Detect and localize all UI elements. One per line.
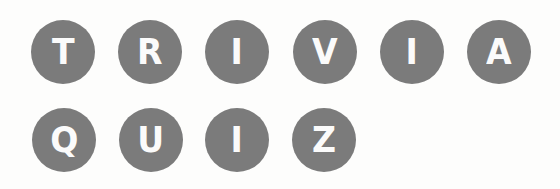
letter-tile-t: T [31,20,95,84]
letter-tile-v: V [293,20,357,84]
letter-tile-i-3: I [205,108,269,172]
letter: Q [50,122,78,158]
letter: R [137,34,163,70]
letter: Z [312,122,336,158]
letter: I [231,34,243,70]
letter-tile-i: I [205,20,269,84]
letter: T [52,34,75,70]
letter-tile-u: U [119,108,183,172]
letter-tile-i-2: I [380,20,444,84]
letter: A [486,34,512,70]
letter: I [406,34,418,70]
letter: I [231,122,243,158]
letter: U [138,122,165,158]
letter-tile-a: A [467,20,531,84]
letter: V [312,34,338,70]
letter-tile-z: Z [292,108,356,172]
letter-tile-r: R [118,20,182,84]
letter-tile-q: Q [32,108,96,172]
